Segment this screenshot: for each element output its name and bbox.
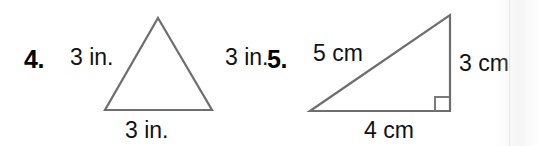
- problem-5-vertical-leg-label: 3 cm: [459, 50, 509, 77]
- right-angle-marker-icon: [435, 97, 449, 111]
- problem-5-hypotenuse-label: 5 cm: [313, 40, 363, 67]
- worksheet-page: 4. 3 in. 3 in. 3 in. 5. 5 cm 3 cm 4 cm: [0, 0, 541, 146]
- problem-5-base-label: 4 cm: [364, 117, 414, 144]
